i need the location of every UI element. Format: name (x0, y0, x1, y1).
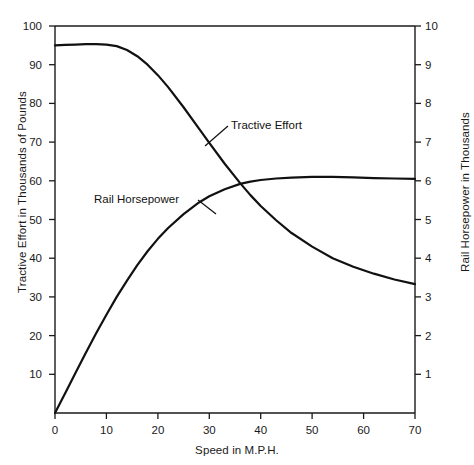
x-axis-tick-label: 40 (246, 424, 276, 436)
y-axis-left-tick-label: 80 (12, 97, 42, 109)
y-axis-left-tick-label: 100 (12, 20, 42, 32)
y-axis-left-tick-label: 60 (12, 175, 42, 187)
x-axis-ticks (55, 413, 415, 419)
y-axis-right-tick-label: 4 (425, 252, 455, 264)
y-axis-right-tick-label: 10 (425, 20, 455, 32)
series-line-tractive-effort (55, 44, 415, 284)
x-axis-tick-label: 70 (400, 424, 430, 436)
x-axis-tick-label: 50 (297, 424, 327, 436)
chart-figure: Tractive Effort in Thousands of Pounds R… (0, 0, 474, 465)
y-axis-right-tick-label: 5 (425, 214, 455, 226)
y-axis-right-tick-label: 8 (425, 97, 455, 109)
x-axis-tick-label: 10 (91, 424, 121, 436)
y-axis-right-tick-label: 9 (425, 59, 455, 71)
y-axis-right-tick-label: 1 (425, 368, 455, 380)
y-axis-right-title: Rail Horsepower in Thousands (459, 0, 471, 392)
series-line-rail-horsepower (55, 177, 415, 413)
x-axis-tick-label: 60 (349, 424, 379, 436)
y-axis-left-tick-label: 70 (12, 136, 42, 148)
y-axis-left-tick-label: 30 (12, 291, 42, 303)
y-axis-left-ticks (49, 26, 55, 374)
series-annotation-rail-horsepower: Rail Horsepower (94, 193, 179, 205)
x-axis-title: Speed in M.P.H. (0, 444, 474, 456)
y-axis-right-tick-label: 7 (425, 136, 455, 148)
y-axis-right-tick-label: 2 (425, 330, 455, 342)
y-axis-left-tick-label: 20 (12, 330, 42, 342)
series-annotation-tractive-effort: Tractive Effort (231, 119, 302, 131)
axis-frame (55, 26, 415, 413)
y-axis-left-tick-label: 10 (12, 368, 42, 380)
y-axis-right-tick-label: 3 (425, 291, 455, 303)
x-axis-tick-label: 30 (194, 424, 224, 436)
y-axis-left-tick-label: 90 (12, 59, 42, 71)
x-axis-tick-label: 0 (40, 424, 70, 436)
chart-plot-area (0, 0, 474, 465)
x-axis-tick-label: 20 (143, 424, 173, 436)
y-axis-right-ticks (415, 26, 421, 374)
y-axis-left-tick-label: 40 (12, 252, 42, 264)
y-axis-left-tick-label: 50 (12, 214, 42, 226)
y-axis-right-tick-label: 6 (425, 175, 455, 187)
